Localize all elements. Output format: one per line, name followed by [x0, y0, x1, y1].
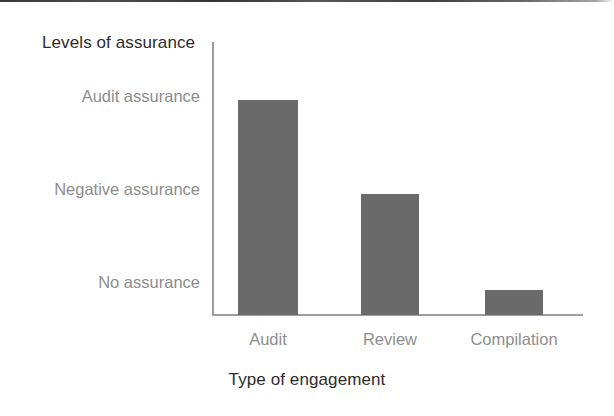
chart-container: Levels of assurance Audit assurance Nega… — [0, 0, 614, 416]
x-axis-title: Type of engagement — [0, 370, 614, 390]
y-axis-title: Levels of assurance — [42, 33, 195, 53]
bar-audit — [238, 100, 298, 315]
x-tick-label-audit: Audit — [228, 330, 308, 349]
y-tick-label-audit-assurance: Audit assurance — [20, 87, 200, 106]
x-tick-label-compilation: Compilation — [464, 330, 564, 349]
bar-compilation — [485, 290, 543, 315]
y-tick-label-no-assurance: No assurance — [20, 273, 200, 292]
y-tick-label-negative-assurance: Negative assurance — [20, 180, 200, 199]
plot-area: Levels of assurance Audit assurance Nega… — [0, 0, 614, 416]
x-tick-label-review: Review — [350, 330, 430, 349]
y-axis-line — [212, 42, 214, 316]
bar-review — [361, 194, 419, 315]
